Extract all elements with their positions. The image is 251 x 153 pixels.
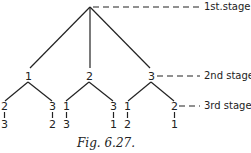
- figure-caption: Fig. 6.27.: [76, 136, 135, 150]
- tree-diagram: 1st.stage 1 2 3 2nd stage 2 3 1 3 1 2 3 …: [0, 0, 251, 153]
- node-l3-top: 3: [49, 100, 56, 113]
- node-l2-3: 3: [148, 70, 155, 83]
- edge-2-b: [89, 82, 113, 101]
- node-l3-top: 1: [63, 100, 70, 113]
- node-l3-top: 1: [124, 100, 131, 113]
- stage2-label: 2nd stage: [204, 70, 251, 81]
- node-l3-bottom: 3: [63, 118, 70, 131]
- stage1-label: 1st.stage: [204, 1, 250, 12]
- edge-2-a: [66, 82, 89, 101]
- node-l2-1: 1: [25, 70, 32, 83]
- stage3-label: 3rd stage: [204, 100, 251, 111]
- node-l3-bottom: 1: [110, 118, 117, 131]
- node-l3-top: 2: [1, 100, 8, 113]
- edge-root-3: [90, 7, 150, 68]
- node-l3-bottom: 3: [1, 118, 8, 131]
- node-l3-top: 2: [171, 100, 178, 113]
- edge-root-1: [30, 7, 90, 68]
- edge-3-b: [151, 82, 174, 101]
- edge-3-a: [128, 82, 151, 101]
- node-l3-bottom: 2: [49, 118, 56, 131]
- edge-1-a: [5, 82, 28, 101]
- node-l3-bottom: 2: [124, 118, 131, 131]
- node-l3-bottom: 1: [171, 118, 178, 131]
- node-l2-2: 2: [86, 70, 93, 83]
- node-l3-top: 3: [110, 100, 117, 113]
- edge-1-b: [28, 82, 52, 101]
